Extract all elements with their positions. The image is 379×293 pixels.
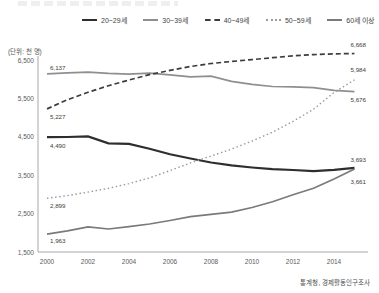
x-tick-label: 2008: [204, 258, 219, 265]
chart-panel: 20~29세30~39세40~49세50~59세60세 이상 (단위: 천 명)…: [0, 0, 379, 293]
x-tick-label: 2014: [327, 258, 342, 265]
x-tick-label: 2010: [245, 258, 260, 265]
series-start-label: 2,899: [50, 202, 66, 209]
source-caption: 통계청, 경제활동인구조사: [300, 277, 370, 287]
x-tick-label: 2006: [163, 258, 178, 265]
series-start-label: 6,137: [50, 64, 66, 71]
y-tick-label: 6,500: [18, 57, 35, 64]
series-end-label: 5,676: [351, 96, 367, 103]
x-tick-label: 2004: [122, 258, 137, 265]
y-tick-label: 5,500: [18, 95, 35, 102]
x-tick-label: 2012: [286, 258, 301, 265]
series-end-label: 5,984: [351, 66, 367, 73]
y-tick-label: 3,500: [18, 172, 35, 179]
series-end-label: 6,668: [351, 41, 367, 48]
series-end-label: 3,693: [351, 156, 367, 163]
series-line: [47, 54, 355, 109]
series-line: [47, 136, 355, 171]
chart-svg: 6,5005,5004,5003,5002,5001,5002000200220…: [0, 0, 379, 270]
y-tick-label: 2,500: [18, 210, 35, 217]
series-start-label: 1,963: [50, 237, 66, 244]
series-line: [47, 72, 355, 92]
series-end-label: 3,661: [351, 178, 367, 185]
x-tick-label: 2002: [81, 258, 96, 265]
series-line: [47, 169, 355, 234]
y-tick-label: 4,500: [18, 133, 35, 140]
series-start-label: 4,490: [50, 142, 66, 149]
y-tick-label: 1,500: [18, 249, 35, 256]
x-tick-label: 2000: [40, 258, 55, 265]
series-start-label: 5,227: [50, 113, 66, 120]
